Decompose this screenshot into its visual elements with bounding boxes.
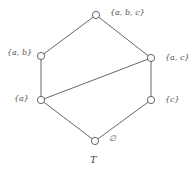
nodes	[37, 11, 154, 144]
edge-abc-ab	[41, 15, 96, 56]
label-ab: {a, b}	[7, 49, 32, 57]
node-ab	[37, 52, 44, 59]
label-abc: {a, b, c}	[110, 9, 145, 17]
edge-c-empty	[95, 100, 151, 141]
node-abc	[92, 11, 99, 18]
edge-ac-a	[41, 58, 151, 100]
node-ac	[147, 54, 154, 61]
label-ac: {a, c}	[165, 54, 190, 62]
label-c: {c}	[165, 96, 180, 104]
label-a: {a}	[14, 95, 29, 103]
edge-a-empty	[41, 100, 95, 141]
node-a	[37, 96, 44, 103]
node-empty	[91, 137, 98, 144]
edges	[41, 15, 151, 141]
hasse-diagram: {a, b, c} {a, b} {a, c} {a} {c} ∅ T	[0, 0, 192, 172]
label-empty: ∅	[109, 135, 116, 143]
diagram-canvas	[0, 0, 192, 172]
node-c	[147, 96, 154, 103]
edge-abc-ac	[96, 15, 151, 58]
diagram-caption: T	[90, 155, 97, 165]
